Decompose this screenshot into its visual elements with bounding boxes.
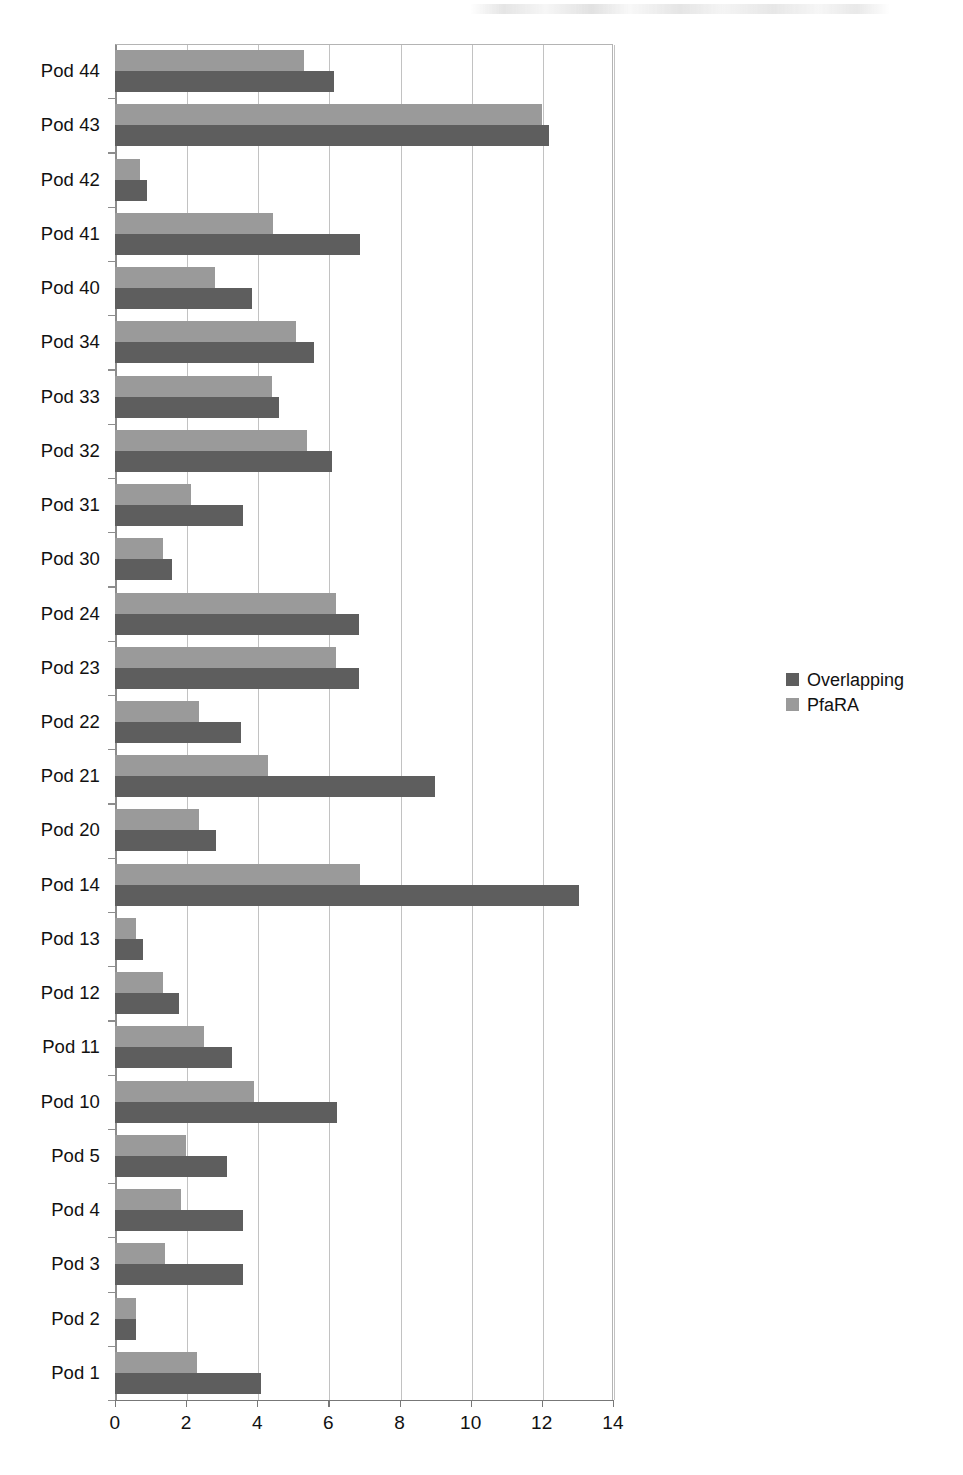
y-tick-3 <box>108 261 115 262</box>
x-tick-4 <box>257 1400 258 1407</box>
x-tick-label-6: 6 <box>301 1412 355 1434</box>
bar-overlapping-pod-2 <box>115 1319 136 1340</box>
category-label-pod-12: Pod 12 <box>0 982 100 1004</box>
bar-pfara-pod-41 <box>115 213 273 234</box>
gridline-x-8 <box>401 45 402 1400</box>
y-tick-5 <box>108 369 115 370</box>
category-label-pod-1: Pod 1 <box>0 1362 100 1384</box>
category-label-pod-31: Pod 31 <box>0 494 100 516</box>
bar-pfara-pod-42 <box>115 159 140 180</box>
bar-pfara-pod-33 <box>115 376 272 397</box>
bar-overlapping-pod-31 <box>115 505 243 526</box>
bar-overlapping-pod-10 <box>115 1102 337 1123</box>
x-tick-label-4: 4 <box>230 1412 284 1434</box>
bar-overlapping-pod-24 <box>115 614 359 635</box>
y-tick-7 <box>108 478 115 479</box>
y-tick-15 <box>108 912 115 913</box>
y-tick-2 <box>108 207 115 208</box>
category-label-pod-4: Pod 4 <box>0 1199 100 1221</box>
bar-pfara-pod-32 <box>115 430 307 451</box>
y-tick-1 <box>108 152 115 153</box>
x-tick-label-12: 12 <box>515 1412 569 1434</box>
bar-overlapping-pod-41 <box>115 234 360 255</box>
category-label-pod-32: Pod 32 <box>0 440 100 462</box>
bar-pfara-pod-34 <box>115 321 296 342</box>
y-tick-23 <box>108 1346 115 1347</box>
bar-overlapping-pod-3 <box>115 1264 243 1285</box>
bar-overlapping-pod-44 <box>115 71 334 92</box>
category-label-pod-34: Pod 34 <box>0 331 100 353</box>
bar-pfara-pod-3 <box>115 1243 165 1264</box>
x-tick-8 <box>400 1400 401 1407</box>
bar-pfara-pod-2 <box>115 1298 136 1319</box>
bar-overlapping-pod-14 <box>115 885 579 906</box>
gridline-x-10 <box>472 45 473 1400</box>
chart-legend: OverlappingPfaRA <box>786 667 961 717</box>
bar-overlapping-pod-23 <box>115 668 359 689</box>
bar-overlapping-pod-4 <box>115 1210 243 1231</box>
gridline-x-12 <box>543 45 544 1400</box>
category-label-pod-11: Pod 11 <box>0 1036 100 1058</box>
bar-pfara-pod-22 <box>115 701 199 722</box>
x-tick-label-2: 2 <box>159 1412 213 1434</box>
bar-overlapping-pod-32 <box>115 451 332 472</box>
category-label-pod-42: Pod 42 <box>0 169 100 191</box>
category-label-pod-5: Pod 5 <box>0 1145 100 1167</box>
category-label-pod-2: Pod 2 <box>0 1308 100 1330</box>
legend-entry-pfara: PfaRA <box>786 692 961 717</box>
x-tick-2 <box>186 1400 187 1407</box>
x-tick-6 <box>328 1400 329 1407</box>
bar-overlapping-pod-33 <box>115 397 279 418</box>
bar-overlapping-pod-34 <box>115 342 314 363</box>
y-tick-14 <box>108 858 115 859</box>
y-tick-22 <box>108 1292 115 1293</box>
category-label-pod-22: Pod 22 <box>0 711 100 733</box>
x-tick-label-0: 0 <box>88 1412 142 1434</box>
category-label-pod-44: Pod 44 <box>0 60 100 82</box>
x-tick-0 <box>115 1400 116 1407</box>
y-tick-12 <box>108 749 115 750</box>
bar-overlapping-pod-43 <box>115 125 549 146</box>
bar-overlapping-pod-5 <box>115 1156 227 1177</box>
bar-overlapping-pod-1 <box>115 1373 261 1394</box>
bar-pfara-pod-5 <box>115 1135 186 1156</box>
bar-pfara-pod-12 <box>115 972 163 993</box>
category-label-pod-30: Pod 30 <box>0 548 100 570</box>
category-label-pod-14: Pod 14 <box>0 874 100 896</box>
y-tick-20 <box>108 1183 115 1184</box>
bar-pfara-pod-10 <box>115 1081 254 1102</box>
y-tick-6 <box>108 424 115 425</box>
category-label-pod-13: Pod 13 <box>0 928 100 950</box>
y-tick-24 <box>108 1400 115 1401</box>
x-tick-label-14: 14 <box>586 1412 640 1434</box>
bar-overlapping-pod-30 <box>115 559 172 580</box>
category-label-pod-43: Pod 43 <box>0 114 100 136</box>
category-label-pod-20: Pod 20 <box>0 819 100 841</box>
bar-overlapping-pod-21 <box>115 776 435 797</box>
bar-overlapping-pod-12 <box>115 993 179 1014</box>
bar-chart: 02468101214Pod 44Pod 43Pod 42Pod 41Pod 4… <box>0 0 963 1475</box>
bar-pfara-pod-44 <box>115 50 304 71</box>
x-tick-10 <box>471 1400 472 1407</box>
bar-pfara-pod-24 <box>115 593 336 614</box>
legend-label-pfara: PfaRA <box>807 694 859 716</box>
y-tick-13 <box>108 803 115 804</box>
category-label-pod-40: Pod 40 <box>0 277 100 299</box>
x-tick-label-10: 10 <box>444 1412 498 1434</box>
bar-overlapping-pod-22 <box>115 722 241 743</box>
legend-label-overlapping: Overlapping <box>807 669 904 691</box>
legend-swatch-overlapping <box>786 673 799 686</box>
bar-overlapping-pod-20 <box>115 830 216 851</box>
bar-pfara-pod-21 <box>115 755 268 776</box>
gridline-x-14 <box>614 45 615 1400</box>
bar-pfara-pod-13 <box>115 918 136 939</box>
y-tick-10 <box>108 641 115 642</box>
category-label-pod-21: Pod 21 <box>0 765 100 787</box>
bar-pfara-pod-43 <box>115 104 542 125</box>
bar-pfara-pod-40 <box>115 267 215 288</box>
y-tick-19 <box>108 1129 115 1130</box>
y-tick-21 <box>108 1237 115 1238</box>
category-label-pod-23: Pod 23 <box>0 657 100 679</box>
bar-overlapping-pod-42 <box>115 180 147 201</box>
bar-pfara-pod-23 <box>115 647 336 668</box>
